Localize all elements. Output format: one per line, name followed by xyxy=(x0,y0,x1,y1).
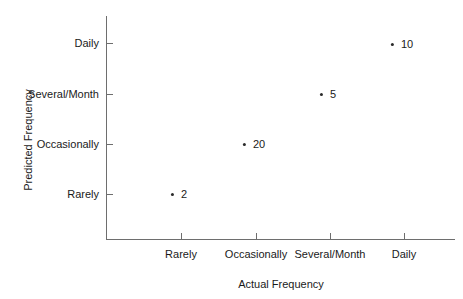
data-point: 2 xyxy=(171,188,187,200)
x-axis-line xyxy=(106,239,455,240)
point-marker-icon xyxy=(391,43,394,46)
x-axis-label-daily: Daily xyxy=(392,248,416,260)
y-axis-label-rarely: Rarely xyxy=(67,189,99,200)
data-point: 10 xyxy=(391,38,413,50)
data-point: 20 xyxy=(243,138,265,150)
x-axis-tick-rarely xyxy=(181,233,182,239)
y-axis-tick-daily xyxy=(107,43,113,44)
y-axis-label-several-month: Several/Month xyxy=(28,89,99,100)
point-marker-icon xyxy=(171,193,174,196)
scatter-plot-figure: Daily Several/Month Occasionally Rarely … xyxy=(0,0,463,299)
x-axis-tick-occasionally xyxy=(256,233,257,239)
data-point: 5 xyxy=(320,88,336,100)
y-axis-tick-rarely xyxy=(107,194,113,195)
x-axis-tick-several-month xyxy=(330,233,331,239)
data-point-label: 10 xyxy=(401,39,413,50)
x-axis-label-several-month: Several/Month xyxy=(295,248,366,260)
x-axis-label-rarely: Rarely xyxy=(165,248,197,260)
point-marker-icon xyxy=(243,143,246,146)
y-axis-title: Predicted Frequency xyxy=(23,89,34,191)
x-axis-tick-daily xyxy=(404,233,405,239)
y-axis-label-occasionally: Occasionally xyxy=(37,139,99,150)
point-marker-icon xyxy=(320,93,323,96)
data-point-label: 5 xyxy=(330,89,336,100)
y-axis-tick-several-month xyxy=(107,94,113,95)
data-point-label: 20 xyxy=(253,139,265,150)
data-point-label: 2 xyxy=(181,189,187,200)
y-axis-label-daily: Daily xyxy=(75,38,99,49)
y-axis-tick-occasionally xyxy=(107,144,113,145)
x-axis-title: Actual Frequency xyxy=(238,278,324,290)
y-axis-line xyxy=(106,16,107,240)
x-axis-label-occasionally: Occasionally xyxy=(225,248,287,260)
